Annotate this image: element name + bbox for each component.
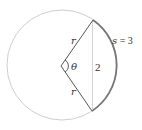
label-theta: θ	[71, 61, 77, 72]
label-arc-value: = 3	[117, 35, 133, 46]
sector-diagram: r r θ 2 s = 3	[0, 0, 142, 130]
radius-upper	[61, 20, 93, 66]
label-chord-length: 2	[95, 61, 101, 73]
angle-marker	[65, 60, 68, 72]
radius-lower	[61, 66, 92, 111]
label-arc-length: s = 3	[112, 35, 133, 46]
